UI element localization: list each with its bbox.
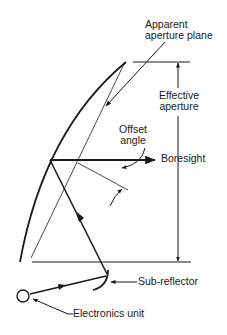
electronics-to-subreflector-ray [30,276,106,294]
main-reflector-curve [20,62,126,262]
effective-aperture-label-line2: aperture [158,101,200,112]
apparent-aperture-leader-arrow [106,42,165,106]
electronics-unit-label: Electronics unit [73,308,144,319]
electronics-unit-icon [17,290,29,302]
electronics-unit-leader-arrow [33,299,73,314]
sub-reflector-label: Sub-reflector [138,276,198,287]
boresight-label: Boresight [161,153,205,164]
offset-angle-label-line2: angle [116,135,150,146]
offset-angle-arrow-bottom [110,189,122,206]
apparent-aperture-label-line2: aperture plane [145,30,213,41]
apparent-aperture-plane-line [31,64,124,258]
offset-angle-arrow-top [122,148,145,168]
aperture-normal-line [78,163,128,190]
electronics-ray-arrow-icon [58,284,66,290]
